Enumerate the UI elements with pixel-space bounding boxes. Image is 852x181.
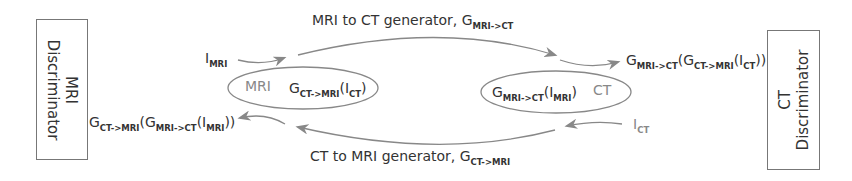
right-cycle-output: GMRI->CT(GCT->MRI(ICT)) (626, 52, 766, 71)
input-ct-label: ICT (633, 116, 649, 135)
left-cycle-output: GCT->MRI(GMRI->CT(IMRI)) (89, 114, 235, 133)
mri-domain-label: MRI (245, 78, 271, 94)
bottom-generator-label: CT to MRI generator, GCT->MRI (310, 148, 510, 167)
mri-ellipse-expression: GCT->MRI(ICT) (289, 80, 367, 99)
top-generator-label: MRI to CT generator, GMRI->CT (312, 12, 513, 31)
ct-ellipse-expression: GMRI->CT(IMRI) (492, 84, 577, 103)
ct-discriminator-box: CT Discriminator (767, 30, 820, 170)
ct-domain-label: CT (593, 82, 611, 98)
mri-discriminator-box: MRI Discriminator (36, 19, 88, 160)
mri-discriminator-label: MRI Discriminator (44, 39, 80, 140)
input-mri-label: IMRI (205, 50, 227, 69)
ct-discriminator-label: CT Discriminator (776, 50, 812, 151)
